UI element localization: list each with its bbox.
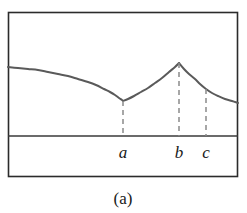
axis-tick-label-a: a (119, 143, 128, 162)
panel-caption: (a) (114, 189, 133, 208)
axis-tick-label-c: c (202, 143, 210, 162)
figure-panel-a: a b c (a) (0, 0, 247, 213)
figure-svg: a b c (a) (0, 0, 247, 213)
axis-tick-label-b: b (175, 143, 184, 162)
